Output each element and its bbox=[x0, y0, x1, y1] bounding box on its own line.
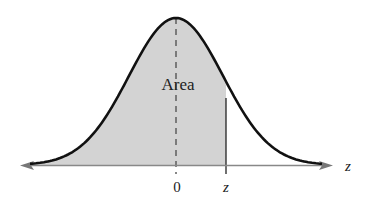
tick-label-z: z bbox=[222, 179, 229, 195]
diagram-svg: Area 0 z z bbox=[0, 0, 365, 208]
area-label: Area bbox=[161, 75, 194, 94]
tick-label-zero: 0 bbox=[173, 179, 181, 195]
axis-label-z: z bbox=[344, 158, 351, 174]
normal-curve-diagram: Area 0 z z bbox=[0, 0, 365, 208]
